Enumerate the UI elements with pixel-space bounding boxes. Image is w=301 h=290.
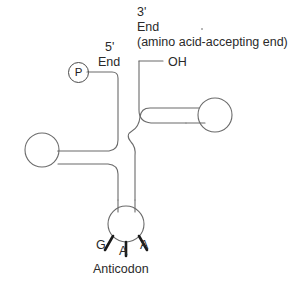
amino-acid-accepting-end-label: (amino acid-accepting end) — [137, 36, 288, 49]
hydroxyl-label: OH — [168, 56, 187, 69]
image-speck-artifact — [201, 28, 203, 30]
anticodon-caption: Anticodon — [93, 263, 149, 276]
acceptor-stem-three-prime-down — [139, 61, 186, 123]
five-prime-label: 5' — [105, 41, 114, 54]
three-prime-end-label: End — [137, 21, 159, 34]
t-arm-loop — [198, 98, 232, 132]
d-arm-lower-rail — [58, 164, 118, 200]
acceptor-stem-five-prime-rail — [58, 72, 118, 151]
d-arm-loop — [25, 133, 59, 167]
anticodon-tick-g — [105, 236, 113, 250]
phosphate-label: P — [68, 62, 89, 83]
anticodon-base-a-right-label: A — [140, 239, 148, 252]
three-prime-label: 3' — [137, 6, 146, 19]
t-arm-lower-rail — [128, 108, 199, 200]
anticodon-base-a-middle-label: A — [119, 245, 127, 258]
anticodon-base-g-label: G — [96, 239, 106, 252]
trna-cloverleaf-diagram: 3' End (amino acid-accepting end) 5' End… — [0, 0, 301, 290]
five-prime-end-label: End — [98, 56, 120, 69]
